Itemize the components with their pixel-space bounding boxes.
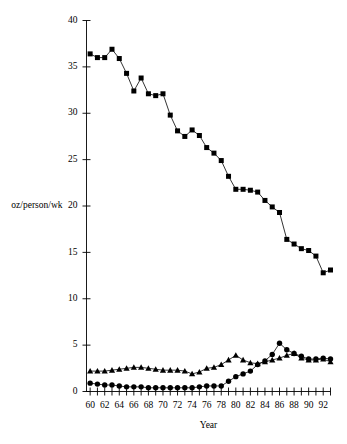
x-tick-label: 86 [275,400,285,410]
data-point-triangle [218,362,224,368]
data-point-triangle [196,369,202,375]
data-point-square [131,88,136,93]
data-point-square [299,246,304,251]
data-point-circle [233,374,238,379]
data-point-square [226,174,231,179]
x-tick-label: 72 [173,400,183,410]
data-point-circle [124,384,129,389]
y-tick-label: 10 [68,293,78,303]
data-point-square [321,270,326,275]
data-point-square [241,187,246,192]
data-point-square [277,210,282,215]
y-tick-label: 30 [68,107,78,117]
data-point-square [313,254,318,259]
series-line [90,49,330,273]
data-point-circle [175,385,180,390]
data-point-circle [313,356,318,361]
data-point-square [190,127,195,132]
data-point-square [255,190,260,195]
data-point-square [139,76,144,81]
data-point-triangle [247,360,253,366]
y-tick-label: 35 [68,61,78,71]
data-point-square [95,55,100,60]
y-tick-label: 20 [68,200,78,210]
x-tick-label: 88 [289,400,299,410]
data-point-circle [87,380,92,385]
y-tick-label: 25 [68,154,78,164]
y-axis-tick-labels: 0510152025303540 [68,15,78,396]
data-point-square [88,51,93,56]
x-axis-title: Year [200,420,218,430]
data-point-circle [262,358,267,363]
data-point-circle [138,384,143,389]
x-tick-label: 70 [158,400,168,410]
series-circle [87,341,333,391]
x-tick-label: 84 [260,400,270,410]
line-chart: 0510152025303540 60626466687072747678808… [0,0,347,444]
data-point-circle [153,385,158,390]
data-point-square [204,145,209,150]
data-point-square [284,237,289,242]
data-point-square [109,47,114,52]
chart-series-group [87,47,334,391]
y-tick-label: 40 [68,15,78,25]
data-point-triangle [225,357,231,363]
x-tick-label: 76 [202,400,212,410]
data-point-circle [299,354,304,359]
data-point-square [182,134,187,139]
data-point-square [262,198,267,203]
data-point-circle [277,341,282,346]
data-point-circle [117,383,122,388]
data-point-circle [270,352,275,357]
data-point-square [292,242,297,247]
data-point-circle [146,385,151,390]
data-point-square [233,187,238,192]
data-point-circle [248,368,253,373]
data-point-circle [328,356,333,361]
data-point-circle [211,383,216,388]
data-point-circle [219,383,224,388]
data-point-circle [240,371,245,376]
data-point-circle [291,351,296,356]
x-tick-label: 68 [144,400,154,410]
data-point-square [153,93,158,98]
data-point-circle [226,379,231,384]
data-point-square [102,55,107,60]
data-point-square [124,71,129,76]
data-point-square [306,248,311,253]
data-point-circle [168,385,173,390]
data-point-circle [284,347,289,352]
chart-container: 0510152025303540 60626466687072747678808… [0,0,347,444]
x-axis-tick-labels: 6062646668707274767880828486889092 [85,400,328,410]
data-point-circle [182,385,187,390]
chart-axes [87,21,331,392]
data-point-triangle [233,352,239,358]
y-tick-label: 15 [68,247,78,257]
x-tick-label: 60 [85,400,95,410]
data-point-square [175,128,180,133]
x-tick-label: 66 [129,400,139,410]
data-point-circle [131,384,136,389]
series-line [90,353,330,373]
data-point-square [219,158,224,163]
x-tick-label: 78 [216,400,226,410]
data-point-circle [95,381,100,386]
x-tick-label: 92 [318,400,328,410]
x-tick-label: 74 [187,400,197,410]
y-tick-label: 0 [73,386,78,396]
data-point-square [117,56,122,61]
data-point-triangle [240,357,246,363]
data-point-square [270,204,275,209]
x-tick-label: 64 [115,400,125,410]
data-point-circle [109,382,114,387]
data-point-square [211,151,216,156]
data-point-circle [204,383,209,388]
data-point-square [168,113,173,118]
x-tick-label: 90 [304,400,314,410]
data-point-square [328,267,333,272]
data-point-square [248,188,253,193]
series-square [88,47,333,276]
x-tick-label: 62 [100,400,110,410]
y-tick-label: 5 [73,339,78,349]
data-point-circle [102,382,107,387]
